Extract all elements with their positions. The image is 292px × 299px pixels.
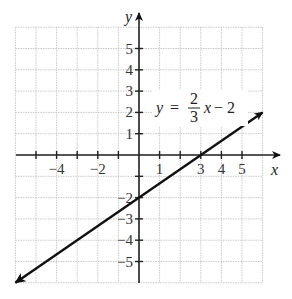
y-tick-label: −4 xyxy=(117,232,133,248)
y-tick-label: −5 xyxy=(117,254,133,270)
y-tick-label: 2 xyxy=(126,104,134,120)
y-tick-label: −3 xyxy=(117,211,133,227)
x-tick-label: 5 xyxy=(238,161,246,177)
equation-equals: = xyxy=(170,99,179,116)
equation-lhs: y xyxy=(154,99,164,117)
y-tick-label: 3 xyxy=(126,83,134,99)
x-tick-label: −2 xyxy=(90,161,106,177)
y-tick-label: 5 xyxy=(126,41,134,57)
equation-variable: x xyxy=(203,99,211,116)
x-tick-label: 4 xyxy=(218,161,226,177)
equation-label: y = 2 3 x − 2 xyxy=(152,90,248,126)
x-tick-label: −4 xyxy=(49,161,65,177)
equation-constant: − 2 xyxy=(214,99,235,116)
x-tick-label: 1 xyxy=(156,161,164,177)
coordinate-plane: −4−2134554321−2−3−4−5 x y y = 2 3 x − 2 xyxy=(0,0,292,299)
y-tick-label: 4 xyxy=(126,62,134,78)
x-tick-label: 3 xyxy=(197,161,205,177)
equation-denominator: 3 xyxy=(190,108,198,125)
equation-numerator: 2 xyxy=(190,90,198,107)
x-axis-label: x xyxy=(270,161,278,178)
y-tick-label: 1 xyxy=(126,126,134,142)
y-axis-label: y xyxy=(123,8,133,26)
